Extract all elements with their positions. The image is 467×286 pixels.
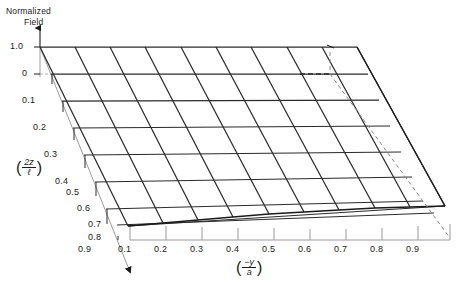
depth-tick-2: 0.2 [33,122,46,132]
depth-axis-open-paren: ( [16,160,21,176]
vertical-axis-title-line2: Field [24,17,43,27]
depth-tick-9: 0.9 [78,244,91,254]
horizontal-tick-4: 0.5 [262,244,275,254]
horizontal-tick-0: 0.1 [118,244,131,254]
depth-tick-6: 0.6 [77,203,90,213]
depth-tick-1: 0.1 [22,95,35,105]
depth-axis-label: ( 2z ℓ ) [16,158,42,178]
depth-tick-leaders [52,74,118,240]
depth-axis-denominator: ℓ [22,168,36,177]
horizontal-axis-open-paren: ( [236,260,241,276]
depth-tick-4: 0.4 [55,176,68,186]
depth-tick-3: 0.3 [44,149,57,159]
vertical-axis-title-line1: Normalized [6,6,51,16]
field-surface-figure: Normalized Field 1.0 0 0.1 0.2 0.3 0.4 0… [0,0,467,286]
depth-tick-8: 0.8 [88,232,101,242]
depth-tick-7: 0.7 [88,219,101,229]
depth-tick-5: 0.5 [66,187,79,197]
depth-tick-0: 0 [22,68,27,78]
horizontal-tick-6: 0.7 [334,244,347,254]
vertical-axis-max-tick: 1.0 [10,41,23,51]
horizontal-axis-label: ( −y a ) [236,258,262,278]
horizontal-tick-7: 0.8 [370,244,383,254]
horizontal-axis-close-paren: ) [257,260,262,276]
depth-axis-close-paren: ) [37,160,42,176]
horizontal-tick-1: 0.2 [154,244,167,254]
horizontal-tick-2: 0.3 [190,244,203,254]
horizontal-axis-denominator: a [242,268,256,277]
horizontal-tick-3: 0.4 [226,244,239,254]
horizontal-tick-8: 0.9 [406,244,419,254]
baseline-ticks [130,224,450,240]
horizontal-tick-5: 0.6 [298,244,311,254]
